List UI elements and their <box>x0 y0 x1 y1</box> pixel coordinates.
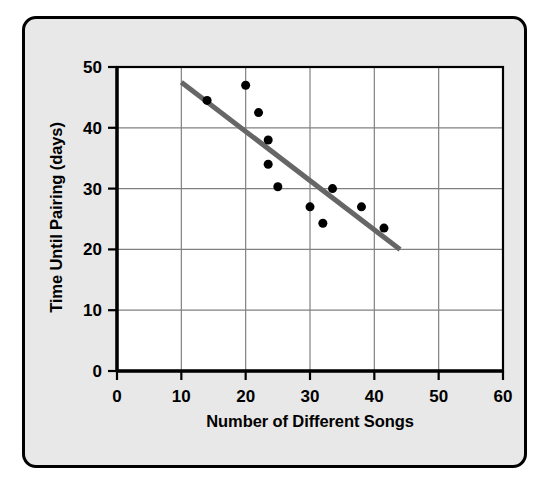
y-tick-label: 0 <box>62 363 102 380</box>
x-tick-label: 40 <box>354 388 394 405</box>
y-axis-title: Time Until Pairing (days) <box>47 68 66 368</box>
data-point <box>273 182 282 191</box>
x-tick-label: 50 <box>419 388 459 405</box>
data-point <box>357 202 366 211</box>
data-point <box>254 108 263 117</box>
x-tick-label: 0 <box>97 388 137 405</box>
x-tick-label: 60 <box>483 388 523 405</box>
data-point <box>264 135 273 144</box>
x-tick-label: 10 <box>161 388 201 405</box>
data-point <box>203 96 212 105</box>
scatter-plot-chart: Time Until Pairing (days) Number of Diff… <box>0 0 551 488</box>
x-tick-label: 20 <box>226 388 266 405</box>
data-point <box>264 160 273 169</box>
data-point <box>306 202 315 211</box>
x-tick-label: 30 <box>290 388 330 405</box>
y-tick-label: 20 <box>62 241 102 258</box>
data-point <box>241 81 250 90</box>
data-point <box>328 184 337 193</box>
x-axis-title: Number of Different Songs <box>117 412 503 431</box>
y-tick-label: 50 <box>62 59 102 76</box>
y-tick-label: 30 <box>62 181 102 198</box>
data-point <box>318 219 327 228</box>
y-tick-label: 10 <box>62 302 102 319</box>
data-point <box>379 224 388 233</box>
y-tick-label: 40 <box>62 120 102 137</box>
